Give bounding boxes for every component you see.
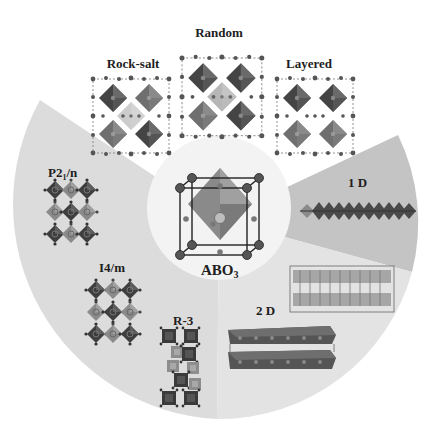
label-layered: Layered: [286, 56, 333, 71]
label-random: Random: [195, 25, 243, 40]
label-1d: 1 D: [348, 175, 367, 190]
p21n-structure: [43, 178, 98, 245]
perovskite-diagram: ABO3 Random Rock-salt Layered P21/n: [0, 0, 438, 439]
center-label: ABO3: [201, 262, 239, 280]
label-rock-salt: Rock-salt: [107, 56, 160, 71]
layered-structure: [275, 76, 356, 157]
label-2d: 2 D: [256, 303, 275, 318]
i4m-structure: [84, 278, 141, 345]
label-r-3: R-3: [173, 313, 194, 328]
1d-chain-structure: [300, 202, 416, 220]
random-structure: [179, 54, 264, 139]
label-i4m: I4/m: [99, 260, 125, 275]
